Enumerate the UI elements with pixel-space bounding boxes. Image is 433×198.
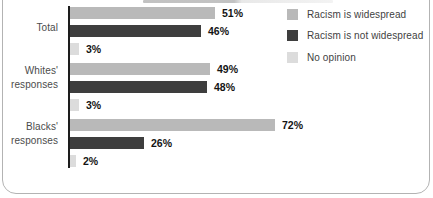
category-label-line: responses xyxy=(8,134,58,148)
category-label-line: responses xyxy=(8,78,58,92)
bar-row: 51% xyxy=(70,7,243,19)
legend-swatch xyxy=(287,9,298,20)
legend-item: No opinion xyxy=(287,51,356,63)
value-label: 2% xyxy=(83,155,98,167)
bar xyxy=(70,99,79,111)
bar-chart: TotalWhites'responsesBlacks'responses 51… xyxy=(0,0,433,198)
legend-label: Racism is not widespread xyxy=(307,30,423,41)
bar xyxy=(70,7,215,19)
value-label: 48% xyxy=(214,81,235,93)
bar xyxy=(70,43,79,55)
category-label-line: Total xyxy=(8,21,58,35)
legend-swatch xyxy=(287,30,298,41)
legend-swatch xyxy=(287,52,298,63)
bar-row: 2% xyxy=(70,155,98,167)
bar xyxy=(70,25,201,37)
bar-row: 26% xyxy=(70,137,172,149)
bar-row: 49% xyxy=(70,63,238,75)
value-label: 46% xyxy=(208,25,229,37)
bar xyxy=(70,119,275,131)
value-label: 51% xyxy=(222,7,243,19)
bar-row: 46% xyxy=(70,25,229,37)
category-label: Blacks'responses xyxy=(8,120,58,148)
category-label: Total xyxy=(8,21,58,35)
bar xyxy=(70,155,76,167)
screenshot: TotalWhites'responsesBlacks'responses 51… xyxy=(0,0,433,198)
value-label: 49% xyxy=(217,63,238,75)
bar xyxy=(70,81,207,93)
bar-row: 3% xyxy=(70,43,101,55)
bar-row: 3% xyxy=(70,99,101,111)
bar xyxy=(70,63,210,75)
value-label: 3% xyxy=(86,43,101,55)
legend-item: Racism is widespread xyxy=(287,8,406,20)
legend-label: No opinion xyxy=(307,52,356,63)
value-label: 72% xyxy=(282,119,303,131)
legend-label: Racism is widespread xyxy=(307,9,406,20)
bar-row: 48% xyxy=(70,81,235,93)
bar-row: 72% xyxy=(70,119,303,131)
legend-item: Racism is not widespread xyxy=(287,30,423,42)
category-label-line: Blacks' xyxy=(8,120,58,134)
bar xyxy=(70,137,144,149)
category-label: Whites'responses xyxy=(8,64,58,92)
category-label-line: Whites' xyxy=(8,64,58,78)
value-label: 26% xyxy=(151,137,172,149)
value-label: 3% xyxy=(86,99,101,111)
